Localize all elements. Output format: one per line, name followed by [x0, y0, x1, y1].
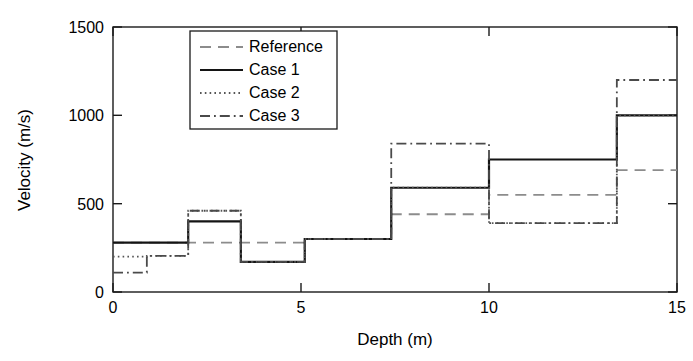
y-tick-label-1500: 1500: [68, 19, 104, 36]
x-tick-label-5: 5: [297, 299, 306, 316]
y-axis-label: Velocity (m/s): [15, 109, 34, 211]
y-tick-label-0: 0: [95, 284, 104, 301]
legend-label-reference: Reference: [249, 38, 323, 55]
series-reference: [113, 170, 677, 242]
legend-label-case-1: Case 1: [249, 61, 300, 78]
series-case-1: [113, 115, 677, 262]
legend-label-case-3: Case 3: [249, 107, 300, 124]
legend-label-case-2: Case 2: [249, 84, 300, 101]
velocity-depth-step-chart: 0 500 1000 1500 0 5 10 15 Depth (m) Velo…: [0, 0, 693, 361]
y-tick-label-1000: 1000: [68, 107, 104, 124]
x-axis-label: Depth (m): [357, 330, 433, 349]
legend: ReferenceCase 1Case 2Case 3: [190, 31, 337, 129]
y-tick-label-500: 500: [77, 196, 104, 213]
x-tick-label-10: 10: [480, 299, 498, 316]
x-tick-label-15: 15: [668, 299, 686, 316]
x-tick-label-0: 0: [109, 299, 118, 316]
